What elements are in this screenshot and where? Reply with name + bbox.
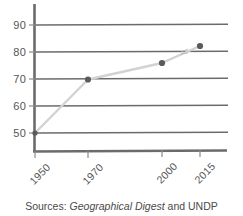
data-point-2000 [159,60,165,66]
gridline-70 [34,78,228,79]
source-suffix: and UNDP [165,200,218,212]
gridline-80 [34,51,228,52]
source-publication: Geographical Digest [70,200,165,212]
data-point-1970 [85,76,91,82]
gridline-90 [34,24,228,25]
x-axis-line [33,151,227,152]
line-chart: 90 80 70 60 50 [0,0,243,216]
gridline-50 [34,132,228,133]
data-point-2015 [197,43,203,49]
source-prefix: Sources: [25,200,69,212]
data-line [35,46,200,133]
gridlines [34,24,228,133]
data-point-1950 [32,130,37,135]
source-caption: Sources: Geographical Digest and UNDP [0,200,243,212]
